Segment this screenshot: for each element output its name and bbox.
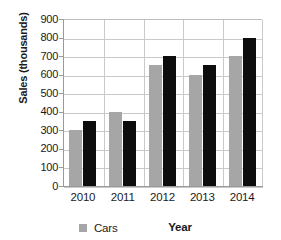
legend-swatch-cars (79, 224, 87, 232)
y-axis-tick-mark (59, 149, 63, 150)
x-axis-title: Year (150, 220, 210, 235)
gridline-vertical (262, 20, 263, 187)
x-axis-tick-label: 2010 (63, 190, 103, 205)
x-axis-line (63, 186, 263, 187)
y-axis-tick-mark (59, 75, 63, 76)
y-axis-tick-label: 500 (26, 87, 58, 100)
bar (243, 38, 256, 186)
y-axis-tick-mark (59, 186, 63, 187)
y-axis-tick-label: 900 (26, 13, 58, 26)
y-axis-tick-label: 700 (26, 50, 58, 63)
x-axis-tick-label: 2014 (222, 190, 262, 205)
y-axis-tick-mark (59, 112, 63, 113)
y-axis-tick-label: 0 (26, 180, 58, 193)
bar (163, 56, 176, 186)
bar (203, 65, 216, 186)
bar (69, 130, 82, 186)
y-axis-tick-labels: 9008007006005004003002001000 (26, 12, 58, 194)
y-axis-tick-mark (59, 93, 63, 94)
x-axis-tick-label: 2011 (103, 190, 143, 205)
y-axis-tick-label: 100 (26, 161, 58, 174)
bar (189, 75, 202, 186)
y-axis-tick-mark (59, 38, 63, 39)
y-axis-tick-label: 300 (26, 124, 58, 137)
y-axis-tick-mark (59, 130, 63, 131)
y-axis-tick-label: 200 (26, 142, 58, 155)
x-axis-tick-label: 2013 (182, 190, 222, 205)
bar (109, 112, 122, 186)
y-axis-tick-mark (59, 167, 63, 168)
y-axis-tick-label: 600 (26, 68, 58, 81)
x-axis-tick-labels: 20102011201220132014 (63, 190, 262, 206)
y-axis-tick-mark (59, 56, 63, 57)
legend-label-cars: Cars (94, 221, 117, 235)
bar (229, 56, 242, 186)
bar-chart-figure: Sales (thousands) 9008007006005004003002… (0, 0, 281, 240)
bar (83, 121, 96, 186)
bar (149, 65, 162, 186)
x-axis-tick-label: 2012 (143, 190, 183, 205)
bars-layer (63, 19, 262, 186)
y-axis-tick-mark (59, 19, 63, 20)
chart-legend: Cars (79, 220, 117, 236)
gridline-horizontal (64, 187, 263, 188)
y-axis-tick-label: 800 (26, 31, 58, 44)
y-axis-tick-label: 400 (26, 105, 58, 118)
bar (123, 121, 136, 186)
